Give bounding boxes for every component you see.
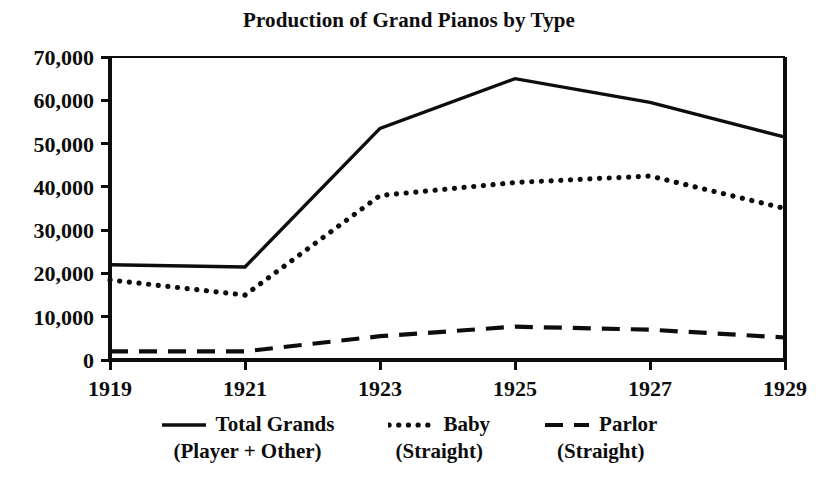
legend-item-baby[interactable]: Baby(Straight): [388, 412, 490, 464]
chart-legend: Total Grands(Player + Other)Baby(Straigh…: [0, 412, 818, 464]
chart-figure: Production of Grand Pianos by Type 010,0…: [0, 0, 818, 490]
data-series-group: [110, 79, 785, 352]
x-tick-label: 1919: [88, 376, 132, 400]
y-tick-label: 50,000: [34, 132, 95, 157]
legend-swatch-solid-icon: [161, 419, 207, 431]
x-tick-label: 1925: [493, 376, 537, 400]
legend-label: Parlor: [599, 412, 657, 438]
y-tick-label: 60,000: [34, 88, 95, 113]
legend-label: Total Grands: [216, 412, 335, 438]
x-tick-label: 1927: [628, 376, 672, 400]
y-tick-label: 10,000: [34, 305, 95, 330]
legend-item-row: Parlor: [544, 412, 657, 438]
legend-label: Baby: [443, 412, 490, 438]
legend-sublabel: (Straight): [557, 439, 645, 465]
series-line-parlor: [110, 327, 785, 352]
legend-item-row: Total Grands: [161, 412, 335, 438]
y-tick-label: 40,000: [34, 175, 95, 200]
legend-sublabel: (Straight): [396, 439, 484, 465]
y-tick-label: 0: [83, 348, 94, 373]
x-tick-label: 1921: [223, 376, 267, 400]
series-line-total-grands: [110, 79, 785, 267]
x-tick-label: 1929: [763, 376, 807, 400]
x-tick-label: 1923: [358, 376, 402, 400]
y-tick-label: 30,000: [34, 218, 95, 243]
line-chart-svg: 010,00020,00030,00040,00050,00060,00070,…: [0, 0, 818, 400]
series-line-baby: [110, 176, 785, 295]
legend-swatch-dotted-icon: [388, 419, 434, 431]
legend-item-row: Baby: [388, 412, 490, 438]
x-axis-tick-labels: 191919211923192519271929: [88, 376, 807, 400]
legend-item-total-grands[interactable]: Total Grands(Player + Other): [161, 412, 335, 464]
legend-swatch-dashed-icon: [544, 419, 590, 431]
y-axis-tick-labels: 010,00020,00030,00040,00050,00060,00070,…: [34, 45, 95, 373]
legend-sublabel: (Player + Other): [173, 439, 321, 465]
legend-item-parlor[interactable]: Parlor(Straight): [544, 412, 657, 464]
y-tick-label: 20,000: [34, 261, 95, 286]
y-tick-label: 70,000: [34, 45, 95, 70]
plot-area: 010,00020,00030,00040,00050,00060,00070,…: [0, 0, 818, 400]
